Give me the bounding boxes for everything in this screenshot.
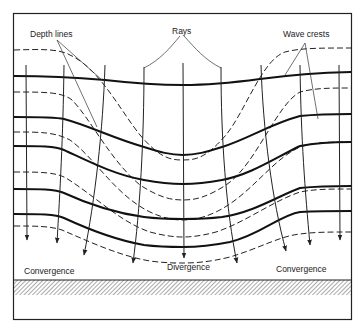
depth-line-5: [14, 226, 351, 263]
depth-lines-label: Depth lines: [30, 29, 73, 39]
ray-5: [183, 63, 184, 258]
rays-leader-right: [184, 36, 221, 68]
rays-label: Rays: [172, 26, 191, 36]
convergence-right-label: Convergence: [276, 264, 327, 274]
wave-crest-5: [14, 211, 351, 247]
label-leaders: [57, 36, 318, 127]
ray-9: [339, 65, 340, 240]
wave-refraction-diagram: Rays Depth lines Wave crests Convergence…: [0, 0, 363, 334]
depth-line-4: [14, 172, 351, 237]
wave-crests-label: Wave crests: [283, 29, 329, 39]
wave-crest-4: [14, 186, 351, 219]
divergence-label: Divergence: [167, 262, 210, 272]
wave-crests-leader-1: [285, 43, 305, 75]
wave-crest-3: [14, 142, 351, 184]
shoreline: [14, 280, 351, 295]
ray-4: [133, 67, 144, 263]
wave-crest-2: [14, 114, 351, 155]
rays-leader-left: [144, 36, 180, 68]
wave-crests-leader-2: [305, 43, 318, 119]
convergence-left-label: Convergence: [24, 266, 75, 276]
rays: [26, 63, 340, 263]
ray-6: [221, 67, 237, 263]
